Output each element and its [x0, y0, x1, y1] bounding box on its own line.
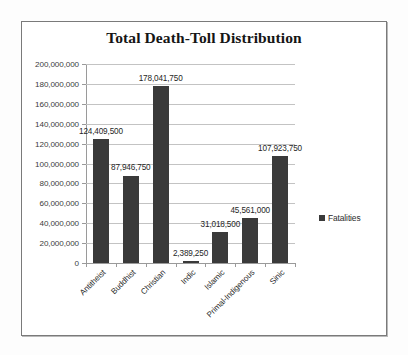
x-axis-tick [295, 263, 296, 267]
bar-indic[interactable] [183, 261, 199, 263]
y-axis-tick [82, 64, 86, 65]
y-axis-tick [82, 164, 86, 165]
screenshot-root: Total Death-Toll Distribution 200,000,00… [0, 0, 408, 355]
x-axis-tick [265, 263, 266, 267]
y-axis-tick [82, 104, 86, 105]
y-axis-label: 120,000,000 [35, 139, 79, 148]
y-axis-tick [82, 223, 86, 224]
y-axis-label: 100,000,000 [35, 159, 79, 168]
y-axis-tick [82, 124, 86, 125]
gridline [86, 183, 295, 184]
bar-value-label-indic: 2,389,250 [173, 249, 208, 258]
gridline [86, 243, 295, 244]
bar-antitheist[interactable] [93, 139, 109, 263]
gridline [86, 223, 295, 224]
y-axis-tick [82, 84, 86, 85]
y-axis-tick [82, 183, 86, 184]
y-axis-label: 20,000,000 [39, 239, 79, 248]
bar-sinic[interactable] [272, 156, 288, 263]
x-axis-category-antitheist: Antitheist [78, 268, 107, 297]
x-axis-category-christian: Christian [139, 268, 167, 296]
y-axis-label: 0 [75, 259, 79, 268]
y-axis-tick [82, 203, 86, 204]
x-axis-tick [146, 263, 147, 267]
y-axis-label: 60,000,000 [39, 199, 79, 208]
x-axis-tick [235, 263, 236, 267]
bar-primal-indigenous[interactable] [242, 218, 258, 263]
y-axis-tick [82, 243, 86, 244]
chart-title: Total Death-Toll Distribution [22, 29, 386, 47]
x-axis-tick [116, 263, 117, 267]
bar-value-label-christian: 178,041,750 [139, 74, 183, 83]
y-axis-label: 80,000,000 [39, 179, 79, 188]
x-axis-category-islamic: Islamic [203, 268, 227, 292]
legend-swatch-fatalities [319, 215, 325, 221]
plot-area: 200,000,000180,000,000160,000,000140,000… [86, 64, 295, 263]
bar-value-label-sinic: 107,923,750 [258, 144, 302, 153]
y-axis-label: 160,000,000 [35, 99, 79, 108]
gridline [86, 104, 295, 105]
gridline [86, 124, 295, 125]
y-axis-label: 180,000,000 [35, 79, 79, 88]
legend-label-fatalities: Fatalities [328, 213, 361, 223]
y-axis-label: 40,000,000 [39, 219, 79, 228]
x-axis-tick [205, 263, 206, 267]
chart-frame: Total Death-Toll Distribution 200,000,00… [21, 21, 387, 336]
gridline [86, 84, 295, 85]
bar-buddhist[interactable] [123, 176, 139, 264]
x-axis-category-indic: Indic [179, 268, 197, 286]
x-axis-category-sinic: Sinic [268, 268, 286, 286]
bar-value-label-buddhist: 87,946,750 [111, 163, 150, 172]
y-axis-label: 140,000,000 [35, 119, 79, 128]
bar-islamic[interactable] [212, 232, 228, 263]
chart-legend: Fatalities [319, 213, 361, 223]
bar-value-label-primal-indigenous: 45,561,000 [230, 206, 269, 215]
y-axis-tick [82, 144, 86, 145]
x-axis-tick [176, 263, 177, 267]
gridline [86, 203, 295, 204]
bar-value-label-antitheist: 124,409,500 [79, 127, 123, 136]
gridline [86, 263, 295, 264]
gridline [86, 64, 295, 65]
x-axis-category-buddhist: Buddhist [109, 268, 137, 296]
bar-christian[interactable] [153, 86, 169, 263]
y-axis-label: 200,000,000 [35, 60, 79, 69]
x-axis-tick [86, 263, 87, 267]
bar-value-label-islamic: 31,018,500 [201, 220, 240, 229]
